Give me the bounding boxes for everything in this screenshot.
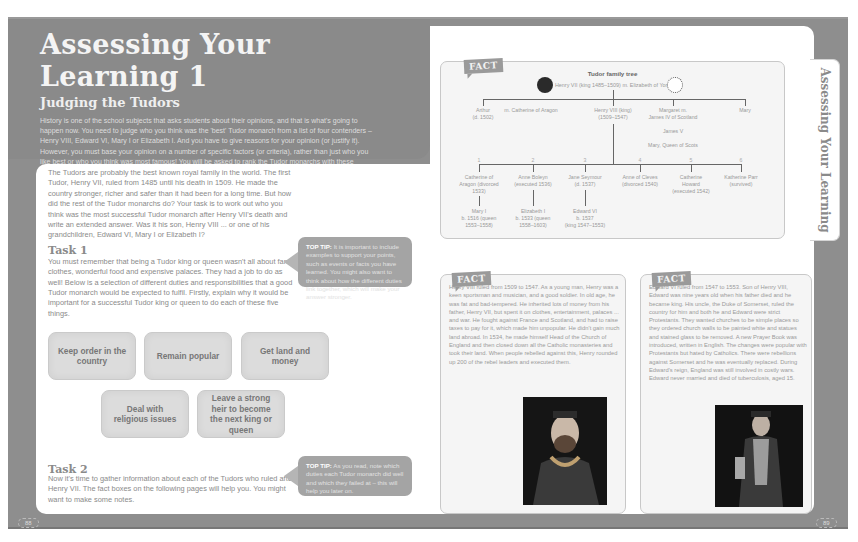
tree-node-wife-2: Anne Boleyn(executed 1536) bbox=[514, 174, 552, 188]
left-page: Assessing Your Learning 1 Judging the Tu… bbox=[8, 19, 430, 514]
duty-card-heir: Leave a strong heir to become the next k… bbox=[197, 390, 285, 438]
fact-box-edward-vi: Edward VI ruled from 1547 to 1553. Son o… bbox=[640, 274, 812, 514]
tree-node-wife-6: Katherine Parr(survived) bbox=[724, 174, 757, 188]
family-tree-box: Tudor family tree Henry VII (king 1485–1… bbox=[440, 61, 785, 239]
tree-node-edward-vi: Edward VIb. 1537(king 1547–1553) bbox=[565, 208, 605, 229]
tree-node-catherine-aragon: m. Catherine of Aragon bbox=[504, 107, 557, 114]
tree-root: Henry VII (king 1485–1509) m. Elizabeth … bbox=[441, 82, 784, 88]
tip-label: TOP TIP: bbox=[306, 462, 332, 469]
fact-tag-henry: FACT bbox=[452, 271, 491, 287]
white-rose-icon bbox=[667, 77, 683, 93]
duty-card-land-money: Get land and money bbox=[241, 332, 329, 380]
top-tip-callout-2: TOP TIP: As you read, note which duties … bbox=[298, 456, 412, 496]
edward-vi-portrait bbox=[715, 405, 803, 507]
tip-text: It is important to include examples to s… bbox=[306, 243, 402, 300]
textbook-spread: Assessing Your Learning 1 Judging the Tu… bbox=[8, 17, 848, 529]
tree-node-henry-viii: Henry VIII (king)(1509–1547) bbox=[594, 107, 631, 121]
page-title: Assessing Your Learning 1 bbox=[40, 29, 410, 93]
page-number-right: 89 bbox=[816, 518, 837, 528]
tree-node-wife-5: CatherineHoward(executed 1542) bbox=[672, 174, 710, 195]
body-text: The Tudors are probably the best known r… bbox=[48, 168, 298, 241]
side-tab: Assessing Your Learning bbox=[810, 59, 840, 241]
tip-label: TOP TIP: bbox=[306, 243, 332, 250]
duty-card-popular: Remain popular bbox=[144, 332, 232, 380]
side-tab-label: Assessing Your Learning bbox=[818, 67, 832, 232]
henry-viii-portrait bbox=[523, 397, 607, 505]
fact-box-henry-viii: Henry VIII ruled from 1509 to 1547. As a… bbox=[440, 274, 626, 514]
duty-card-order: Keep order in the country bbox=[48, 332, 136, 380]
task1-text: You must remember that being a Tudor kin… bbox=[48, 257, 298, 319]
tree-node-mary-scots: Mary, Queen of Scots bbox=[648, 142, 698, 149]
fact-text-henry: Henry VIII ruled from 1509 to 1547. As a… bbox=[449, 283, 621, 366]
task2-text: Now it's time to gather information abou… bbox=[48, 474, 298, 505]
tree-node-mary: Mary bbox=[739, 107, 751, 114]
tree-node-wife-3: Jane Seymour(d. 1537) bbox=[568, 174, 601, 188]
tree-node-wife-1: Catherine ofAragon (divorced1533) bbox=[459, 174, 499, 195]
right-page: Assessing Your Learning Tudor family tre… bbox=[430, 19, 848, 514]
tree-node-margaret: Margaret m.James IV of Scotland bbox=[648, 107, 697, 121]
tree-node-mary-i: Mary Ib. 1516 (queen1553–1558) bbox=[462, 208, 497, 229]
fact-tag-edward: FACT bbox=[652, 271, 691, 287]
fact-text-edward: Edward VI ruled from 1547 to 1553. Son o… bbox=[649, 283, 807, 383]
page-number-left: 88 bbox=[18, 518, 39, 528]
tree-node-wife-4: Anne of Cleves(divorced 1540) bbox=[622, 174, 658, 188]
top-tip-callout-1: TOP TIP: It is important to include exam… bbox=[298, 237, 412, 287]
tree-node-arthur: Arthur(d. 1502) bbox=[473, 107, 494, 121]
title-banner: Assessing Your Learning 1 Judging the Tu… bbox=[8, 19, 430, 159]
duty-card-religion: Deal with religious issues bbox=[101, 390, 189, 438]
fact-tag-tree: FACT bbox=[464, 58, 503, 74]
page-subtitle: Judging the Tudors bbox=[40, 95, 410, 110]
tree-node-james-v: James V bbox=[663, 128, 683, 135]
tree-node-elizabeth-i: Elizabeth Ib. 1533 (queen1558–1603) bbox=[516, 208, 551, 229]
